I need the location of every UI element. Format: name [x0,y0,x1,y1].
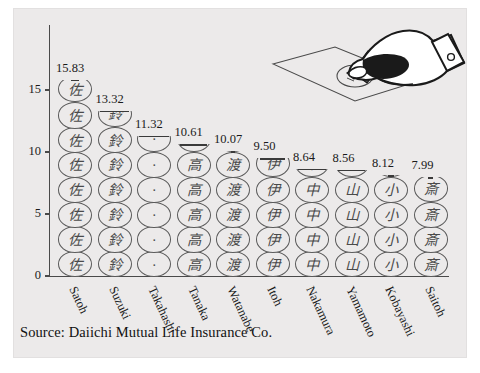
hanko-stamp-symbol: 伊 [256,251,290,277]
hanko-stamp-symbol: 高 [177,177,211,203]
hanko-stamp-symbol: 中 [295,202,329,228]
hanko-stamp-symbol: · [137,251,171,277]
hanko-glyph: · [138,258,170,273]
hanko-stamp-symbol: 鈴 [98,111,132,127]
hanko-glyph: · [138,158,170,173]
hanko-stamp-symbol: 佐 [58,80,92,103]
hanko-glyph: 山 [336,233,368,248]
hanko-glyph: 小 [375,233,407,248]
hanko-glyph: 斎 [415,233,447,248]
plot-area: 051015 佐佐佐佐佐佐佐佐15.83Satoh鈴鈴鈴鈴鈴鈴鈴13.32Suz… [14,9,466,357]
hanko-stamp-symbol: 鈴 [98,251,132,277]
hanko-stamp-symbol: 佐 [58,202,92,228]
hanko-stamp-symbol: 小 [374,177,408,203]
partial-stamp-cap [260,158,284,160]
bar-value-label: 15.83 [56,61,84,76]
hanko-glyph: 伊 [257,208,289,223]
hanko-stamp-symbol: 中 [295,251,329,277]
partial-stamp-cap [338,170,364,172]
hanko-glyph: 伊 [257,258,289,273]
hanko-stamp-symbol: 斎 [414,177,448,202]
y-axis-tick-mark [45,151,50,152]
hanko-glyph: 佐 [59,158,91,173]
hanko-glyph: 伊 [257,233,289,248]
hanko-stamp-partial: · [137,136,171,152]
hanko-stamp-symbol: 渡 [216,226,250,252]
hanko-stamp-symbol: · [137,202,171,228]
hanko-glyph: 中 [296,233,328,248]
cuff-button-icon [448,54,455,61]
bar-value-label: 11.32 [135,117,163,132]
bar-value-label: 8.12 [372,156,394,171]
hanko-glyph: 佐 [59,208,91,223]
hanko-glyph: 渡 [217,258,249,273]
hanko-stamp-symbol: 鈴 [98,177,132,203]
hanko-illustration [251,21,466,136]
source-caption: Source: Daiichi Mutual Life Insurance Co… [20,324,272,341]
hanko-glyph: 渡 [217,158,249,173]
x-axis-category-label: Yamamoto [342,284,379,340]
hanko-glyph: 鈴 [99,158,131,173]
hanko-stamp-symbol: 中 [295,226,329,252]
hanko-stamp-symbol: 渡 [216,177,250,203]
hanko-glyph: 伊 [257,158,289,172]
hanko-stamp-symbol: 佐 [58,226,92,252]
partial-stamp-cap [231,151,235,153]
hanko-glyph: · [138,208,170,223]
hanko-glyph: 鈴 [99,233,131,248]
bar-column[interactable]: ······11.32Takahashi [137,9,177,357]
partial-stamp-cap [388,175,394,177]
bar-column[interactable]: 佐佐佐佐佐佐佐佐15.83Satoh [58,9,98,357]
hanko-stamp-symbol: · [137,136,171,152]
hanko-stamp-symbol: 小 [374,226,408,252]
hanko-glyph: 高 [178,208,210,223]
bar-value-label: 8.56 [333,151,355,166]
hanko-stamp-symbol: 山 [335,226,369,252]
hanko-glyph: 鈴 [99,258,131,273]
hanko-stamp-partial: 佐 [58,80,92,103]
hanko-stamp-symbol: 小 [374,251,408,277]
hanko-stamp-symbol: 渡 [216,202,250,228]
y-axis-tick-label: 10 [17,144,41,159]
hanko-glyph: 山 [336,258,368,273]
y-axis-tick-mark [45,89,50,90]
hanko-stamp-symbol: · [137,226,171,252]
partial-stamp-cap [298,169,327,171]
bar-value-label: 10.61 [175,125,203,140]
hanko-glyph: 斎 [415,208,447,223]
hanko-glyph: 山 [336,208,368,223]
hanko-glyph: 渡 [217,233,249,248]
x-axis-category-label: Saitoh [421,284,448,319]
partial-stamp-cap [71,80,80,82]
partial-stamp-cap [139,136,169,138]
partial-stamp-cap [100,111,130,113]
x-axis-category-label: Itoh [263,284,285,309]
hanko-stamp-symbol: 小 [374,202,408,228]
partial-stamp-cap [428,177,432,179]
bar-column[interactable]: 高高高高高高10.61Tanaka [177,9,217,357]
hanko-stamp-symbol: 鈴 [98,152,132,178]
hanko-glyph: · [138,136,170,147]
hanko-stamp-symbol: 佐 [58,152,92,178]
bar-column[interactable]: 鈴鈴鈴鈴鈴鈴鈴13.32Suzuki [98,9,138,357]
hanko-glyph: 佐 [59,109,91,124]
hanko-stamp-symbol: 伊 [256,226,290,252]
hanko-stamp-symbol: 斎 [414,202,448,228]
hanko-stamp-symbol: 佐 [58,102,92,128]
x-axis-category-label: Satoh [65,284,91,316]
hanko-glyph: 高 [178,233,210,248]
x-axis-category-label: Tanaka [184,284,213,323]
bar-column[interactable]: 渡渡渡渡渡渡10.07Watanabe [216,9,256,357]
hanko-stamp-symbol: 高 [177,202,211,228]
hanko-glyph: · [138,183,170,198]
hanko-glyph: 山 [336,183,368,198]
hanko-stamp-symbol: 伊 [256,202,290,228]
hanko-glyph: 中 [296,258,328,273]
y-axis-tick-mark [45,213,50,214]
bar-value-label: 9.50 [254,139,276,154]
illustration-svg [251,21,466,136]
hanko-glyph: 中 [296,208,328,223]
partial-stamp-cap [180,144,208,146]
hanko-stamp-partial: 鈴 [98,111,132,127]
hanko-stamp-symbol: 高 [177,251,211,277]
